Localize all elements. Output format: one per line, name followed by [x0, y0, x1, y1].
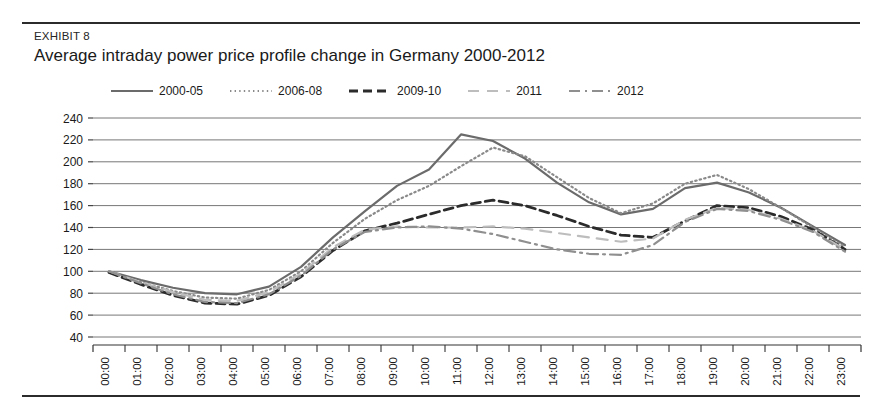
x-axis-tick-label: 14:00 [547, 357, 559, 386]
series-line-2012 [109, 209, 845, 303]
x-axis-tick-label: 11:00 [451, 357, 463, 385]
line-chart-plot: 40608010012014016018020022024000:0001:00… [0, 0, 881, 419]
x-axis-tick-label: 12:00 [483, 357, 495, 386]
series-line-2006-08 [109, 148, 845, 299]
y-axis-tick-label: 180 [63, 177, 83, 191]
x-axis-tick-label: 21:00 [771, 357, 783, 386]
exhibit-figure: EXHIBIT 8 Average intraday power price p… [0, 0, 881, 419]
y-axis-tick-label: 60 [70, 309, 84, 323]
x-axis-tick-label: 17:00 [643, 357, 655, 386]
series-line-2000-05 [109, 134, 845, 294]
x-axis-tick-label: 07:00 [323, 357, 335, 386]
x-axis-tick-label: 20:00 [739, 357, 751, 386]
x-axis-tick-label: 23:00 [835, 357, 847, 386]
y-axis-tick-label: 80 [70, 287, 84, 301]
series-line-2009-10 [109, 200, 845, 304]
x-axis-tick-label: 00:00 [99, 357, 111, 386]
x-axis-tick-label: 18:00 [675, 357, 687, 386]
x-axis-tick-label: 02:00 [163, 357, 175, 386]
x-axis-tick-label: 22:00 [803, 357, 815, 386]
bottom-divider-rule [22, 395, 860, 397]
x-axis-tick-label: 19:00 [707, 357, 719, 386]
x-axis-tick-label: 04:00 [227, 357, 239, 386]
x-axis-tick-label: 13:00 [515, 357, 527, 386]
y-axis-tick-label: 220 [63, 133, 83, 147]
x-axis-tick-label: 05:00 [259, 357, 271, 386]
x-axis-tick-label: 16:00 [611, 357, 623, 386]
y-axis-tick-label: 200 [63, 155, 83, 169]
x-axis-tick-label: 15:00 [579, 357, 591, 386]
x-axis-tick-label: 08:00 [355, 357, 367, 386]
x-axis-tick-label: 03:00 [195, 357, 207, 386]
y-axis-tick-label: 160 [63, 199, 83, 213]
series-line-2011 [109, 208, 845, 301]
y-axis-tick-label: 140 [63, 221, 83, 235]
y-axis-tick-label: 240 [63, 112, 83, 126]
x-axis-tick-label: 06:00 [291, 357, 303, 386]
x-axis-tick-label: 01:00 [131, 357, 143, 386]
y-axis-tick-label: 40 [70, 331, 84, 345]
x-axis-tick-label: 10:00 [419, 357, 431, 386]
y-axis-tick-label: 100 [63, 265, 83, 279]
x-axis-tick-label: 09:00 [387, 357, 399, 386]
y-axis-tick-label: 120 [63, 243, 83, 257]
